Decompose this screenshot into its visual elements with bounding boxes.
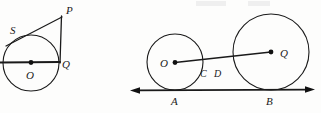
right-center-dot-O xyxy=(173,60,178,65)
label-right-point-D: D xyxy=(213,68,222,79)
label-left-point-S: S xyxy=(10,24,16,36)
label-left-point-Q: Q xyxy=(62,58,70,70)
geometry-figure-page: O Q S P O Q C D A xyxy=(0,0,321,113)
label-right-point-C: C xyxy=(200,68,207,79)
tangent-line-left-arrowhead xyxy=(130,87,140,93)
right-center-line-OQ xyxy=(175,52,271,63)
label-left-center-O: O xyxy=(26,69,34,81)
right-center-dot-Q xyxy=(269,50,274,55)
left-segment-PQ xyxy=(60,16,62,63)
label-right-small-center-O: O xyxy=(160,57,168,69)
label-left-point-P: P xyxy=(65,4,73,16)
page-bleed-artifacts xyxy=(196,1,270,6)
tangent-line-right-arrowhead xyxy=(305,86,315,92)
left-center-dot-O xyxy=(29,60,34,65)
geometry-figure-canvas: O Q S P O Q C D A xyxy=(0,0,321,113)
right-diagram-group: O Q C D A B xyxy=(130,14,315,107)
right-common-tangent-line xyxy=(136,90,309,91)
label-right-large-center-Q: Q xyxy=(280,47,288,59)
left-diagram-group: O Q S P xyxy=(0,4,73,91)
label-right-point-A: A xyxy=(170,95,178,107)
label-right-point-B: B xyxy=(266,95,273,107)
